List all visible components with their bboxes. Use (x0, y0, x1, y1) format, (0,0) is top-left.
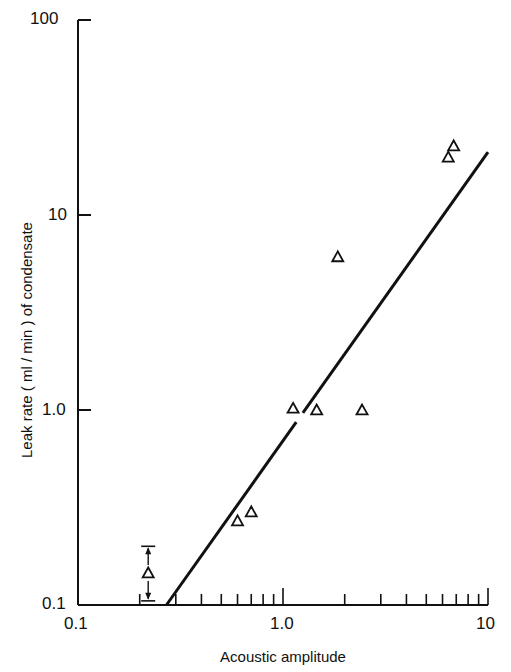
data-point-triangle (311, 405, 322, 415)
chart-plot-area (0, 0, 511, 672)
data-point-triangle (448, 140, 459, 150)
fit-line-upper (303, 152, 488, 413)
range-point-triangle (143, 567, 154, 577)
data-point-triangle (232, 515, 243, 525)
x-axis-label: Acoustic amplitude (220, 648, 346, 665)
arrow-up-icon (145, 547, 151, 554)
fit-line-lower (166, 422, 296, 605)
arrow-down-icon (145, 593, 151, 600)
y-axis-label: Leak rate ( ml / min ) of condensate (18, 222, 35, 458)
data-point-triangle (246, 506, 257, 516)
y-tick-label-0-1: 0.1 (42, 594, 66, 614)
data-point-triangle (443, 152, 454, 162)
y-tick-label-100: 100 (30, 9, 58, 29)
x-tick-label-0-1: 0.1 (64, 614, 88, 634)
data-point-triangle (357, 405, 368, 415)
x-tick-label-10: 10 (476, 614, 495, 634)
x-tick-label-1: 1.0 (270, 614, 294, 634)
y-tick-label-1: 1.0 (42, 400, 66, 420)
y-tick-label-10: 10 (48, 205, 67, 225)
data-point-triangle (288, 403, 299, 413)
data-point-triangle (332, 251, 343, 261)
